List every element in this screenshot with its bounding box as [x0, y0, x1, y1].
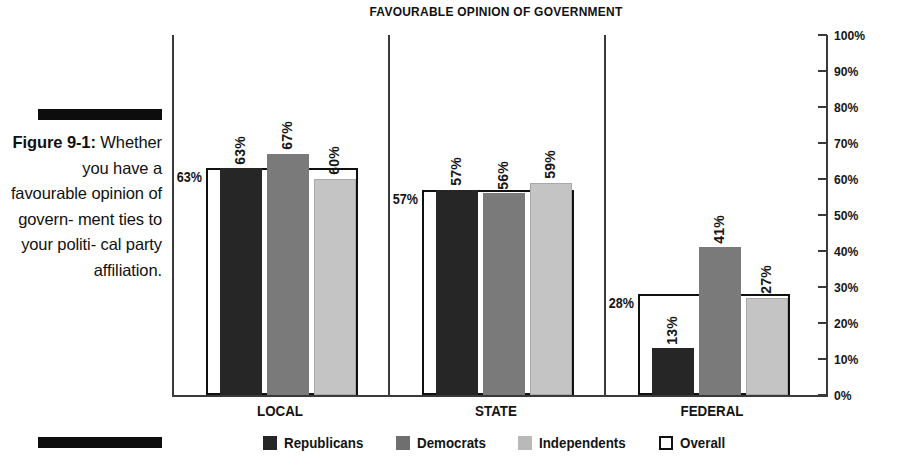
figure-caption-text: Whether you have a favourable opinion of… [11, 133, 162, 279]
bar-value-label: 27% [758, 265, 774, 294]
bar-value-label: 67% [279, 121, 295, 150]
bar-value-label: 57% [448, 157, 464, 186]
category-label-federal: FEDERAL [613, 403, 812, 419]
figure-caption: Figure 9-1: Whether you have a favourabl… [4, 130, 162, 284]
bar-independents[interactable] [314, 179, 356, 395]
bar-group: 63%63%67%60%LOCAL [172, 35, 388, 395]
bar-value-label: 13% [664, 316, 680, 345]
axis-tick-label: 50% [834, 208, 858, 223]
bar-group: 28%13%41%27%FEDERAL [604, 35, 820, 395]
legend-swatch-icon [518, 436, 532, 450]
bar-democrats[interactable] [267, 154, 309, 395]
axis-tick-label: 30% [834, 280, 858, 295]
bar-value-label: 56% [495, 161, 511, 190]
legend-swatch-icon [263, 436, 277, 450]
axis-right [826, 35, 828, 397]
legend-label: Overall [680, 435, 725, 451]
legend-label: Democrats [417, 435, 486, 451]
bar-group: 57%57%56%59%STATE [388, 35, 604, 395]
figure-caption-column: Figure 9-1: Whether you have a favourabl… [0, 0, 166, 474]
bar-value-label-overall: 63% [177, 169, 202, 185]
bar-value-label: 63% [232, 136, 248, 165]
bar-republicans[interactable] [652, 348, 694, 395]
caption-rule-top [38, 109, 162, 120]
bar-value-label-overall: 28% [609, 295, 634, 311]
chart-title: FAVOURABLE OPINION OF GOVERNMENT [192, 4, 799, 19]
legend-item-democrats[interactable]: Democrats [396, 435, 492, 451]
axis-tick-label: 90% [834, 64, 858, 79]
legend-swatch-icon [659, 436, 673, 450]
bar-independents[interactable] [746, 298, 788, 395]
axis-tick-label: 20% [834, 316, 858, 331]
bar-value-label: 59% [542, 150, 558, 179]
legend-label: Republicans [284, 435, 363, 451]
bar-independents[interactable] [530, 183, 572, 395]
legend-swatch-icon [396, 436, 410, 450]
axis-tick-label: 70% [834, 136, 858, 151]
caption-rule-bottom [38, 437, 162, 448]
bar-republicans[interactable] [220, 168, 262, 395]
legend-item-independents[interactable]: Independents [518, 435, 633, 451]
chart-legend: RepublicansDemocratsIndependentsOverall [166, 435, 826, 451]
bar-republicans[interactable] [436, 190, 478, 395]
axis-tick-label: 60% [834, 172, 858, 187]
plot-area: 100%90%80%70%60%50%40%30%20%10%0%63%63%6… [172, 35, 820, 395]
axis-tick-label: 10% [834, 352, 858, 367]
axis-tick-label: 0% [834, 388, 852, 403]
axis-baseline [172, 395, 828, 397]
chart: FAVOURABLE OPINION OF GOVERNMENT 100%90%… [166, 0, 901, 474]
bar-democrats[interactable] [483, 193, 525, 395]
axis-tick-label: 80% [834, 100, 858, 115]
figure-container: Figure 9-1: Whether you have a favourabl… [0, 0, 901, 474]
legend-item-republicans[interactable]: Republicans [263, 435, 370, 451]
category-label-local: LOCAL [181, 403, 380, 419]
bar-democrats[interactable] [699, 247, 741, 395]
axis-tick-label: 100% [834, 28, 865, 43]
legend-item-overall[interactable]: Overall [659, 435, 729, 451]
legend-label: Independents [539, 435, 626, 451]
axis-tick-label: 40% [834, 244, 858, 259]
bar-value-label-overall: 57% [393, 191, 418, 207]
bar-value-label: 41% [711, 215, 727, 244]
category-label-state: STATE [397, 403, 596, 419]
bar-value-label: 60% [326, 146, 342, 175]
figure-number: Figure 9-1: [13, 133, 96, 151]
